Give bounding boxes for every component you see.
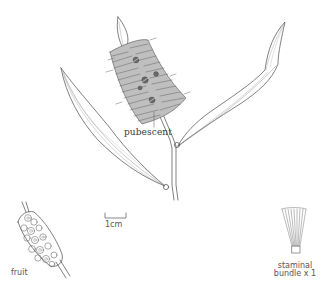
pubescent-label: pubescent — [124, 128, 172, 137]
fruit-drawing — [18, 202, 70, 278]
fruit-label: fruit — [11, 269, 28, 277]
botanical-illustration: pubescent 1cm fruit staminal bundle x 1 — [0, 0, 325, 301]
staminal-bundle-drawing — [282, 208, 306, 254]
bottlebrush-spike — [106, 38, 190, 124]
main-stem — [158, 112, 178, 200]
scale-bar-label: 1cm — [105, 221, 122, 229]
staminal-bundle-label: staminal bundle x 1 — [273, 262, 317, 279]
illustration-svg — [0, 0, 325, 301]
right-leaf — [178, 22, 285, 146]
scale-bar — [105, 213, 126, 218]
staminal-label-line2: bundle x 1 — [273, 270, 317, 278]
